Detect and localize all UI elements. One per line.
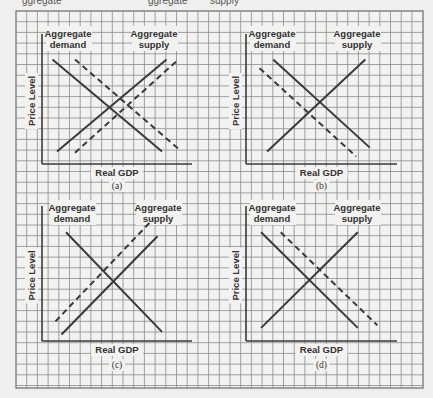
supply-label: Aggregate	[131, 28, 178, 39]
demand-label: Aggregate	[49, 202, 96, 213]
panel-caption: (a)	[112, 181, 123, 192]
x-axis-label: Real GDP	[300, 167, 344, 178]
supply-label: Aggregate	[334, 202, 381, 213]
panel-caption: (d)	[316, 360, 327, 371]
y-axis-label: Price Level	[230, 250, 241, 300]
svg-text:demand: demand	[54, 213, 91, 224]
x-axis-label: Real GDP	[95, 344, 139, 355]
y-axis-label: Price Level	[26, 250, 37, 300]
y-axis-label: Price Level	[26, 76, 37, 126]
panel-caption: (b)	[316, 181, 327, 192]
supply-label: Aggregate	[135, 202, 182, 213]
svg-text:supply: supply	[342, 39, 373, 50]
svg-text:supply: supply	[342, 213, 373, 224]
panel-caption: (c)	[112, 360, 123, 371]
x-axis-label: Real GDP	[300, 344, 344, 355]
supply-label: Aggregate	[334, 28, 381, 39]
demand-label: Aggregate	[249, 202, 296, 213]
svg-text:demand: demand	[254, 213, 291, 224]
y-axis-label: Price Level	[230, 76, 241, 126]
svg-text:supply: supply	[143, 213, 174, 224]
graph-paper-grid	[16, 11, 423, 388]
ad-as-figure: AggregatedemandAggregatesupplyReal GDPPr…	[0, 0, 433, 398]
svg-text:supply: supply	[139, 39, 170, 50]
svg-text:demand: demand	[50, 39, 87, 50]
demand-label: Aggregate	[249, 28, 296, 39]
svg-text:demand: demand	[254, 39, 291, 50]
demand-label: Aggregate	[45, 28, 92, 39]
x-axis-label: Real GDP	[95, 167, 139, 178]
